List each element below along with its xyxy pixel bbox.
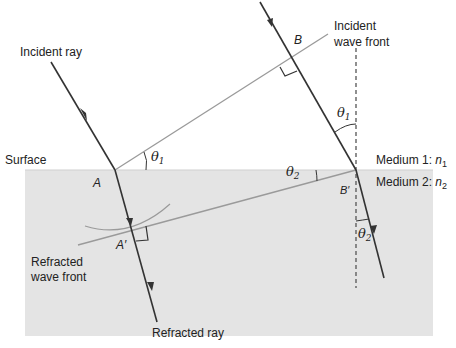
angle-arc-theta1-left (144, 152, 147, 170)
label-refracted-ray: Refracted ray (152, 326, 224, 340)
label-surface: Surface (5, 153, 46, 167)
incident-wave-front (115, 34, 328, 170)
label-point-B-prime: B′ (340, 183, 349, 197)
incident-ray-left (51, 62, 115, 170)
label-point-B: B (294, 33, 302, 47)
right-angle-B (280, 67, 297, 76)
label-incident-wave-front-line2: wave front (334, 35, 389, 49)
label-theta1-left: θ1 (151, 150, 165, 168)
arrow-icon (267, 18, 273, 27)
label-point-A: A (93, 176, 101, 190)
label-medium-1: Medium 1: n1 (376, 153, 447, 171)
label-point-A-prime: A′ (116, 238, 126, 252)
angle-arc-theta1-right (335, 124, 356, 132)
refraction-diagram: Incident ray Incident wave front Surface… (0, 0, 456, 348)
label-refracted-wave-front-line2: wave front (31, 270, 86, 284)
medium-2-region (25, 170, 433, 336)
label-theta1-right: θ1 (337, 106, 351, 124)
label-medium-2: Medium 2: n2 (376, 175, 447, 193)
label-refracted-wave-front-line1: Refracted (31, 255, 83, 269)
label-theta2-left: θ2 (286, 165, 300, 183)
arrow-icon (80, 108, 87, 121)
label-incident-ray: Incident ray (20, 45, 82, 59)
label-incident-wave-front-line1: Incident (334, 19, 376, 33)
label-theta2-right: θ2 (358, 227, 372, 245)
